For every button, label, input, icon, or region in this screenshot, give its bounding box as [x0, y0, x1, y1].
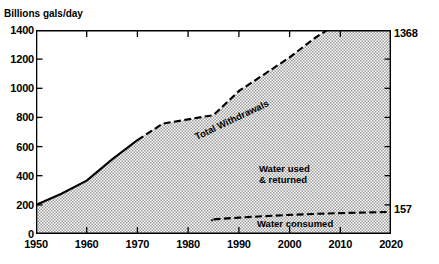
end-value-water-consumed: 157 [394, 203, 412, 215]
x-tick-1950: 1950 [24, 238, 48, 250]
x-tick-1980: 1980 [176, 238, 200, 250]
y-tick-1200: 1200 [10, 53, 34, 65]
chart-title: PROJECTED WATER USE IN U.S.: 1950-2020 [66, 0, 396, 2]
y-tick-400: 400 [16, 170, 34, 182]
end-value-total-withdrawals: 1368 [394, 27, 418, 39]
series-label-water-consumed: Water consumed [257, 218, 333, 229]
x-tick-1970: 1970 [126, 238, 150, 250]
y-tick-1000: 1000 [10, 82, 34, 94]
x-tick-1960: 1960 [75, 238, 99, 250]
chart-container: PROJECTED WATER USE IN U.S.: 1950-2020 B… [0, 0, 439, 264]
band-label-line-2: & returned [259, 174, 310, 185]
y-tick-600: 600 [16, 141, 34, 153]
x-tick-1990: 1990 [227, 238, 251, 250]
y-axis-tick-labels: 1400 1200 1000 800 600 400 200 0 [0, 0, 34, 264]
water-consumed-start-marker [211, 219, 213, 221]
band-label-line-1: Water used [259, 163, 310, 174]
y-tick-200: 200 [16, 199, 34, 211]
x-tick-2000: 2000 [278, 238, 302, 250]
y-tick-800: 800 [16, 111, 34, 123]
y-tick-1400: 1400 [10, 24, 34, 36]
x-tick-2020: 2020 [379, 238, 403, 250]
x-tick-2010: 2010 [328, 238, 352, 250]
band-label-water-used-returned: Water used & returned [259, 163, 310, 185]
